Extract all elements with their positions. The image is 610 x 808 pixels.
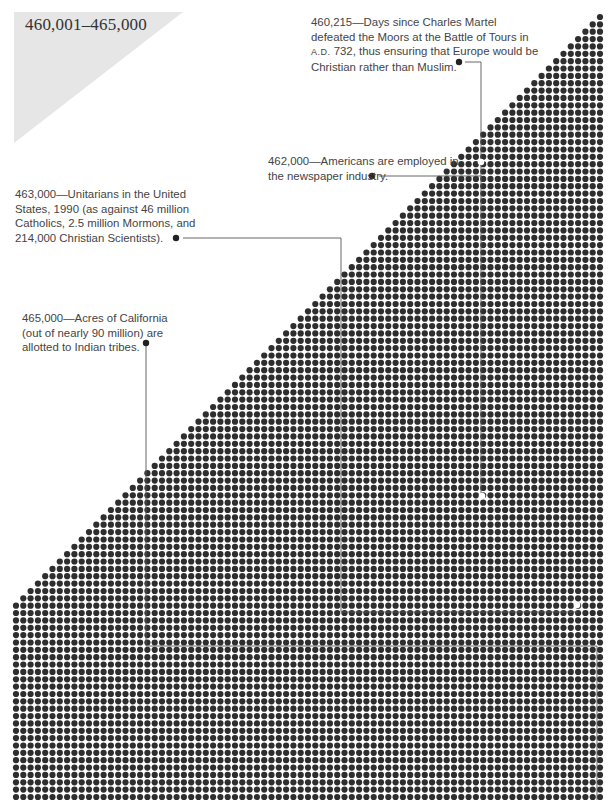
annotation-line: A.D. 732, thus ensuring that Europe woul…: [311, 44, 538, 60]
dot-field: [0, 0, 610, 808]
annotation-line: allotted to Indian tribes.: [22, 340, 168, 355]
annotation-line: Catholics, 2.5 million Mormons, and: [15, 216, 195, 231]
annotation-460215: 460,215—Days since Charles Martel defeat…: [311, 15, 538, 74]
annotation-line: 462,000—Americans are employed in: [268, 154, 459, 169]
annotation-line: 214,000 Christian Scientists).: [15, 231, 195, 246]
annotation-line: 460,215—Days since Charles Martel: [311, 15, 538, 30]
annotation-462000: 462,000—Americans are employed in the ne…: [268, 154, 459, 183]
annotation-465000: 465,000—Acres of California (out of near…: [22, 311, 168, 355]
annotation-line: (out of nearly 90 million) are: [22, 326, 168, 341]
annotation-line: Christian rather than Muslim.: [311, 60, 538, 75]
annotation-line: defeated the Moors at the Battle of Tour…: [311, 30, 538, 45]
annotation-line: the newspaper industry.: [268, 169, 459, 184]
annotation-463000: 463,000—Unitarians in the United States,…: [15, 187, 195, 245]
annotation-line: 465,000—Acres of California: [22, 311, 168, 326]
annotation-line: States, 1990 (as against 46 million: [15, 202, 195, 217]
annotation-line: 463,000—Unitarians in the United: [15, 187, 195, 202]
